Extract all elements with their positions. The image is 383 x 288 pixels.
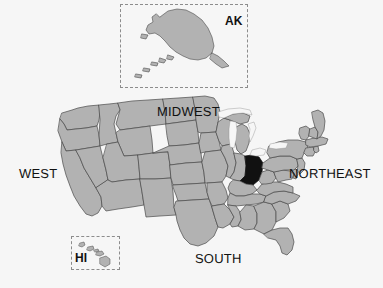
state-ar — [207, 182, 228, 206]
us-regions-map-figure: AK HI WEST MIDWEST NORTHEAST SOUTH — [0, 0, 383, 288]
state-nm — [140, 178, 176, 217]
inset-label-ak: AK — [225, 15, 242, 27]
region-label-midwest: MIDWEST — [157, 105, 220, 118]
state-al — [238, 205, 257, 230]
state-sd — [166, 120, 199, 146]
state-vt — [299, 126, 310, 140]
region-label-west: WEST — [19, 167, 57, 180]
region-label-northeast: NORTHEAST — [289, 167, 371, 180]
state-az — [96, 179, 144, 211]
inset-label-hi: HI — [75, 252, 87, 264]
state-co — [138, 152, 171, 179]
state-ri — [314, 146, 319, 153]
lake-ontario — [269, 142, 288, 149]
contiguous-states-group — [58, 96, 328, 255]
state-ct — [304, 147, 315, 156]
state-tx — [174, 199, 218, 246]
state-ks — [170, 162, 205, 185]
state-fl — [264, 228, 294, 255]
state-ok — [173, 183, 209, 201]
lake-erie — [250, 148, 266, 156]
state-ga — [254, 202, 276, 234]
region-label-south: SOUTH — [195, 252, 242, 265]
